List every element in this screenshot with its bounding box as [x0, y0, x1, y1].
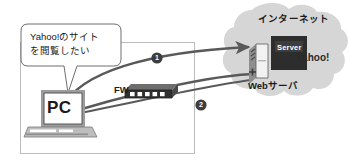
pc-label: PC — [47, 98, 72, 118]
speech-bubble-line-2: を閲覧したい — [30, 45, 90, 56]
firewall-appliance-icon — [125, 84, 178, 98]
internet-cloud-label: インターネット — [258, 14, 329, 25]
server-tower-icon — [249, 44, 268, 84]
webserver-label: Webサーバ — [248, 81, 298, 92]
speech-bubble-text: Yahoo!のサイト を閲覧したい — [30, 30, 116, 58]
yahoo-label: Yahoo! — [296, 52, 329, 64]
flow-marker-2-number: 2 — [196, 101, 206, 108]
diagram-canvas: Yahoo!のサイト を閲覧したい インターネット Server Yahoo! … — [0, 0, 349, 167]
flow-marker-1-number: 1 — [152, 54, 162, 61]
speech-bubble-line-1: Yahoo!のサイト — [30, 31, 99, 42]
firewall-label: FW — [114, 85, 129, 96]
